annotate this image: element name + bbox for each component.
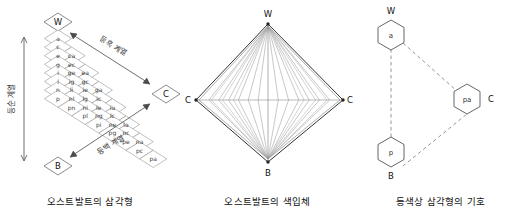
grid-cell-label: ig [69, 78, 75, 86]
grid-cell-label: p [56, 95, 60, 103]
hex-vertex-label-white: W [387, 6, 396, 16]
grid-cell-label: pg [109, 129, 117, 137]
panel-ostwald-triangle: W B C 등순 계열 등흑 계열 등백 계열 accaeeceaggegcga… [0, 0, 180, 212]
grid-cell-label: ga [95, 86, 103, 94]
grid-cell-label: pc [136, 147, 143, 155]
ostwald-figure-set: W B C 등순 계열 등흑 계열 등백 계열 accaeeceaggegcga… [0, 0, 526, 212]
color-solid-fan-line [268, 100, 289, 159]
grid-cell-label: pl [82, 112, 88, 120]
grid-cell-label: pn [68, 104, 76, 112]
grid-cell-label: lc [110, 112, 115, 119]
color-solid-shell [211, 26, 327, 159]
grid-cell-label: ca [68, 52, 75, 59]
hex-node-pa: pa [454, 84, 480, 114]
solid-vertex-label-white: W [264, 9, 273, 19]
vertex-label-chroma: C [163, 89, 169, 99]
hex-vertex-label-chroma: C [488, 94, 494, 104]
axis-arrow-vertical [21, 37, 27, 161]
color-solid-fan-line [268, 100, 309, 159]
grid-cell-label: la [123, 121, 129, 128]
color-solid-fan-line [268, 26, 289, 100]
grid-cell-label: ne [109, 121, 117, 128]
hex-symbol-a: a [389, 32, 393, 40]
solid-vertex-label-chroma-left: C [185, 95, 191, 105]
grid-cell-label: nl [69, 95, 75, 102]
color-solid-shell [234, 26, 305, 159]
grid-cell-label: li [70, 86, 74, 93]
caption-equal-hue-symbols: 등색상 삼각형의 기호 [355, 194, 526, 208]
grid-cell-label: pa [149, 155, 157, 163]
axis-label-vertical: 등순 계열 [6, 84, 16, 114]
grid-cell-label: gc [82, 78, 89, 86]
grid-cell-label: lg [82, 95, 88, 103]
hex-node-a: a [378, 20, 404, 50]
grid-cell-label: pi [96, 121, 102, 129]
grid-cell-label: ic [96, 95, 101, 102]
color-solid-shell [222, 26, 315, 159]
ostwald-color-solid-diagram: W B C C [180, 0, 355, 186]
ostwald-triangle-diagram: W B C 등순 계열 등흑 계열 등백 계열 accaeeceaggegcga… [0, 0, 180, 186]
grid-cell-label: ia [110, 104, 116, 111]
color-solid-fan-line [219, 100, 268, 159]
grid-cell-label: nc [122, 129, 129, 136]
vertex-label-white: W [54, 17, 63, 27]
hex-symbol-pa: pa [463, 96, 472, 104]
color-solid-fan-line [268, 26, 319, 100]
hex-node-p: p [378, 137, 404, 167]
grid-cell-label: pe [122, 138, 130, 146]
grid-cell-label: a [56, 35, 60, 42]
color-solid-fan-line [238, 26, 268, 100]
color-solid-fan-line [219, 26, 268, 100]
hex-symbol-p: p [389, 149, 394, 157]
color-solid-fan-line [229, 26, 268, 100]
grid-cell-label: g [56, 61, 60, 69]
color-solid-fan-line [268, 100, 319, 159]
color-solid-fan-line [248, 26, 268, 100]
equal-hue-triangle-diagram: a W p B pa C [355, 0, 526, 186]
color-solid-fan-line [238, 100, 268, 159]
color-solid-fan-line [229, 100, 268, 159]
grid-cell-label: ec [68, 61, 75, 68]
grid-cell-label: e [56, 52, 60, 59]
grid-cell-label: ea [82, 69, 90, 76]
caption-ostwald-color-solid: 오스트발트의 색입체 [180, 194, 355, 208]
solid-vertex-label-black: B [265, 168, 271, 178]
grid-cell-label: ge [68, 69, 76, 77]
grid-cell-label: na [136, 138, 144, 145]
solid-vertex-label-chroma-right: C [347, 95, 353, 105]
hex-vertex-label-black: B [388, 171, 394, 181]
color-solid-fan-line [268, 26, 309, 100]
caption-ostwald-triangle: 오스트발트의 삼각형 [0, 194, 180, 208]
vertex-label-black: B [55, 161, 61, 171]
grid-cell-label: le [96, 104, 102, 111]
color-solid-fan-line [268, 26, 299, 100]
grid-cell-label: c [56, 43, 59, 50]
grid-cell-label: ni [82, 104, 88, 111]
grid-cell-label: ng [95, 112, 103, 120]
color-solid-fan-lines [209, 26, 330, 159]
panel-equal-hue-symbols: a W p B pa C 등색상 삼각형의 기호 [355, 0, 526, 212]
panel-ostwald-color-solid: W B C C 오스트발트의 색입체 [180, 0, 355, 212]
grid-cell-label: ie [83, 86, 89, 93]
color-solid-fan-line [268, 100, 299, 159]
grid-cell-label: n [56, 86, 60, 93]
color-solid-fan-line [248, 100, 268, 159]
